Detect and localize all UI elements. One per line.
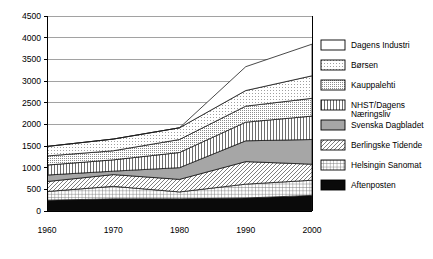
y-tick-label: 1500 xyxy=(22,141,41,151)
legend-label-nhst-dagens-line2: Næringsliv xyxy=(351,109,391,119)
x-tick-label: 1960 xyxy=(37,225,56,235)
y-tick-label: 0 xyxy=(36,206,41,216)
x-tick-label: 1990 xyxy=(236,225,255,235)
legend-label-svenska-dagbladet: Svenska Dagbladet xyxy=(351,120,424,130)
x-tick-label: 1970 xyxy=(104,225,123,235)
legend-label-kauppalehti: Kauppalehti xyxy=(351,80,395,90)
y-tick-label: 3500 xyxy=(22,54,41,64)
legend-label-aftenposten: Aftenposten xyxy=(351,180,396,190)
legend-swatch-dagens-industri xyxy=(321,40,345,50)
legend-label-dagens-industri: Dagens Industri xyxy=(351,40,410,50)
stacked-area-chart: 050010001500200025003000350040004500 196… xyxy=(0,0,433,259)
legend-label-helsingin-sanomat: Helsingin Sanomat xyxy=(351,160,422,170)
legend-swatch-berlingske-tidende xyxy=(321,140,345,150)
x-tick-label: 1980 xyxy=(170,225,189,235)
x-tick-label: 2000 xyxy=(302,225,321,235)
legend-swatch-kauppalehti xyxy=(321,80,345,90)
legend-swatch-b-rsen xyxy=(321,60,345,70)
y-tick-label: 500 xyxy=(27,184,42,194)
chart-canvas: 050010001500200025003000350040004500 196… xyxy=(0,0,433,259)
legend-label-berlingske-tidende: Berlingske Tidende xyxy=(351,140,423,150)
y-tick-label: 3000 xyxy=(22,76,41,86)
legend-label-b-rsen: Børsen xyxy=(351,60,378,70)
legend-swatch-svenska-dagbladet xyxy=(321,120,345,130)
y-tick-label: 2500 xyxy=(22,98,41,108)
y-tick-label: 1000 xyxy=(22,163,41,173)
legend-swatch-helsingin-sanomat xyxy=(321,160,345,170)
legend-swatch-nhst-dagens xyxy=(321,100,345,110)
y-tick-label: 4000 xyxy=(22,33,41,43)
y-tick-label: 2000 xyxy=(22,119,41,129)
y-tick-label: 4500 xyxy=(22,11,41,21)
legend-swatch-aftenposten xyxy=(321,180,345,190)
